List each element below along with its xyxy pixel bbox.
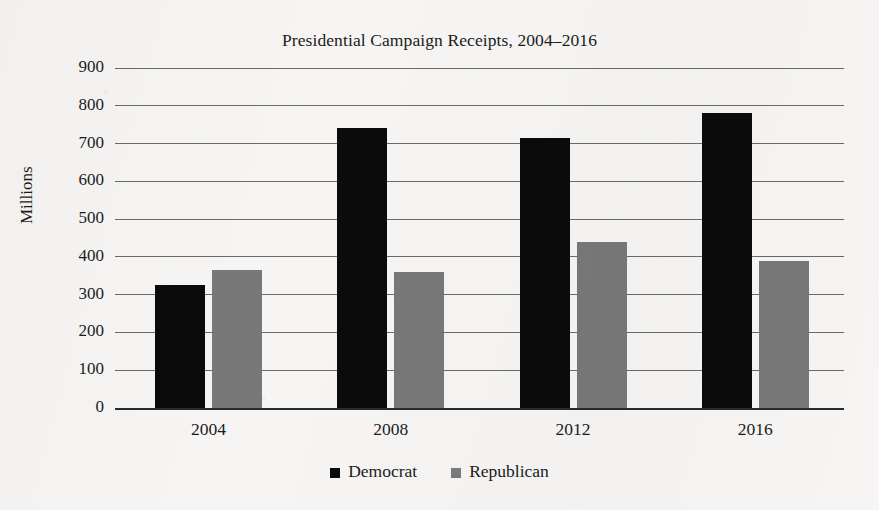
y-axis-tick-label: 700 [34, 133, 104, 153]
legend-label: Republican [469, 461, 549, 482]
x-axis-line [115, 408, 844, 410]
bar-democrat-2004 [155, 285, 205, 408]
gridline [115, 68, 844, 69]
plot-area [115, 66, 844, 410]
y-axis-tick-label: 400 [34, 246, 104, 266]
legend-item-democrat[interactable]: Democrat [330, 461, 417, 482]
chart-title: Presidential Campaign Receipts, 2004–201… [0, 30, 879, 51]
legend-item-republican[interactable]: Republican [451, 461, 549, 482]
y-axis-tick-label: 100 [34, 359, 104, 379]
legend-swatch-republican-icon [451, 468, 461, 478]
y-axis-tick-label: 800 [34, 95, 104, 115]
y-axis-tick-labels: 9008007006005004003002001000 [32, 66, 104, 410]
bar-republican-2016 [759, 261, 809, 408]
x-axis-tick-label-2008: 2008 [346, 419, 436, 440]
legend-label: Democrat [348, 461, 417, 482]
y-axis-tick-label: 500 [34, 208, 104, 228]
legend-swatch-democrat-icon [330, 468, 340, 478]
bar-democrat-2012 [520, 138, 570, 408]
y-axis-tick-label: 600 [34, 170, 104, 190]
y-axis-tick-label: 900 [34, 57, 104, 77]
gridline [115, 105, 844, 106]
x-axis-tick-label-2012: 2012 [528, 419, 618, 440]
y-axis-tick-label: 0 [34, 397, 104, 417]
bar-democrat-2016 [702, 113, 752, 408]
bar-republican-2004 [212, 270, 262, 408]
y-axis-tick-label: 300 [34, 284, 104, 304]
chart-legend: DemocratRepublican [0, 461, 879, 482]
bar-chart-figure: Presidential Campaign Receipts, 2004–201… [0, 0, 879, 510]
bar-republican-2008 [394, 272, 444, 408]
x-axis-tick-label-2016: 2016 [710, 419, 800, 440]
y-axis-tick-label: 200 [34, 321, 104, 341]
x-axis-tick-label-2004: 2004 [164, 419, 254, 440]
bar-republican-2012 [577, 242, 627, 408]
bar-democrat-2008 [337, 128, 387, 408]
